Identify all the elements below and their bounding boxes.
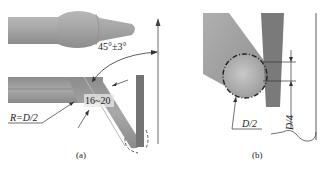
angle-label: 45°±3°: [98, 41, 127, 52]
caption-b: (b): [252, 150, 263, 160]
radius-label-b: D/2: [241, 118, 257, 129]
workpiece-tooth: [136, 75, 144, 147]
vertical-reference-arrow: [156, 18, 161, 144]
panel-b: D/4 D/2 (b): [203, 13, 316, 160]
caption-a: (a): [76, 150, 86, 160]
workpiece-tooth-b: [261, 13, 284, 107]
depth-label: D/4: [284, 115, 295, 131]
edge-angle-label: 16~20: [85, 95, 110, 106]
panel-a: 45°±3° 16~20 R=D/2 (a): [8, 11, 161, 160]
tool-closeup: [203, 13, 267, 98]
radius-label: R=D/2: [9, 112, 38, 123]
diagram-canvas: 45°±3° 16~20 R=D/2 (a): [0, 0, 326, 173]
